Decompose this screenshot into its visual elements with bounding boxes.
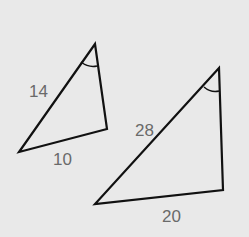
small-triangle: 14 10 xyxy=(19,44,107,169)
large-triangle-shape xyxy=(95,68,223,204)
large-hypotenuse-label: 28 xyxy=(135,121,154,140)
large-base-label: 20 xyxy=(162,207,181,226)
similar-triangles-diagram: 14 10 28 20 xyxy=(0,0,249,237)
large-triangle: 28 20 xyxy=(95,68,223,226)
large-angle-mark xyxy=(204,87,219,92)
small-hypotenuse-label: 14 xyxy=(29,82,48,101)
small-base-label: 10 xyxy=(53,150,72,169)
small-angle-mark xyxy=(81,62,97,67)
diagram-svg: 14 10 28 20 xyxy=(0,0,249,237)
